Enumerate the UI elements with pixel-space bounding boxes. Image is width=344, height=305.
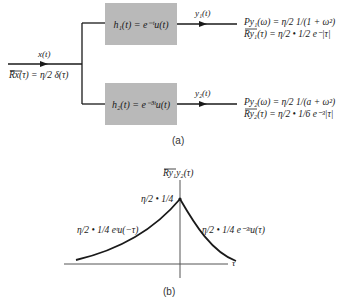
filter-box-h2: h₂(t) = e⁻³ᵗu(t) xyxy=(105,83,177,125)
filter-box-h1: h₁(t) = e⁻ᵗu(t) xyxy=(105,3,177,45)
right-curve-label: η/2 • 1/4 e⁻³ᵗu(τ) xyxy=(202,225,265,236)
output-y1-label: y₁(t) xyxy=(195,8,211,18)
x-axis-label: τ xyxy=(232,258,235,268)
psd-y2: Py₂(ω) = η/2 1/(a + ω²) xyxy=(244,97,335,108)
autocorr-y2: Ry₂(τ) = η/2 • 1/6 e⁻³|τ| xyxy=(244,109,333,120)
caption-a: (a) xyxy=(172,135,184,146)
output-y2-label: y₂(t) xyxy=(195,88,211,98)
filter-h1-label: h₁(t) = e⁻ᵗu(t) xyxy=(113,19,168,30)
output-arrow-1-icon xyxy=(199,21,207,27)
peak-point xyxy=(178,197,181,200)
input-signal-label: x(t) xyxy=(38,49,51,59)
y-axis-label: Ry₁y₂(τ) xyxy=(163,168,193,179)
caption-b: (b) xyxy=(163,286,175,297)
diagram-lines xyxy=(0,0,344,305)
output-arrow-2-icon xyxy=(199,101,207,107)
psd-y1: Py₁(ω) = η/2 1/(1 + ω²) xyxy=(244,17,335,28)
left-curve-label: η/2 • 1/4 eᵗu(−τ) xyxy=(77,225,138,236)
peak-label: η/2 • 1/4 xyxy=(141,194,173,205)
input-arrow-icon xyxy=(40,61,48,67)
input-autocorr-label: R̅x(τ) = η/2 δ(τ) xyxy=(9,70,69,81)
filter-h2-label: h₂(t) = e⁻³ᵗu(t) xyxy=(112,99,170,110)
autocorr-y1: Ry₁(τ) = η/2 • 1/2 e⁻|τ| xyxy=(244,29,331,40)
